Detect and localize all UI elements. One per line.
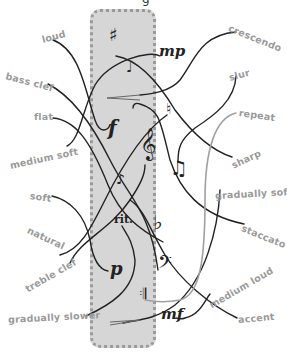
rit-symbol: rit. [114,214,133,225]
label-flat: flat [34,111,53,122]
line-loud [53,40,110,130]
music-matching-worksheet: g [0,0,287,359]
flat-symbol: ♭ [153,212,162,232]
line-slur [178,76,236,162]
mf-symbol: mf [161,307,183,322]
sharp-symbol: ♯ [109,26,118,44]
treble-clef-symbol: 𝄞 [140,130,157,158]
line-soft [52,196,108,271]
accent-note-symbol: ♪ [116,172,125,186]
eighth-notes-symbol: ♫ [170,158,188,178]
mp-symbol: mp [159,44,185,59]
p-symbol: p [110,260,123,278]
line-treble-clef [70,165,145,263]
natural-symbol: ♮ [166,102,171,117]
line-crescendo [140,32,236,95]
decrescendo-hairpin-icon [110,320,140,325]
staccato-note-symbol: ♩ [126,60,133,74]
bass-clef-symbol: 𝄢 [158,254,172,276]
f-symbol: f [108,118,117,138]
crescendo-hairpin-icon [107,95,140,100]
line-staccato [133,103,244,224]
repeat-symbol: 𝄇 [139,287,146,302]
connector-lines [0,0,287,359]
